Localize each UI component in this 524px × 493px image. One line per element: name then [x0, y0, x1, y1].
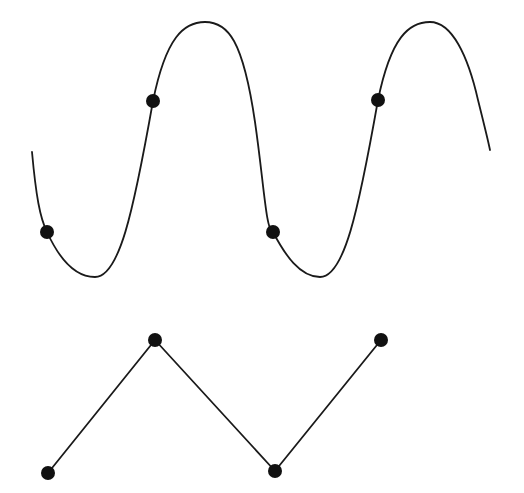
data-point-marker[interactable]	[374, 333, 388, 347]
data-point-marker[interactable]	[266, 225, 280, 239]
data-point-marker[interactable]	[148, 333, 162, 347]
data-point-marker[interactable]	[371, 93, 385, 107]
data-point-marker[interactable]	[41, 466, 55, 480]
figure-svg	[0, 0, 524, 493]
figure-background	[0, 0, 524, 493]
data-point-marker[interactable]	[146, 94, 160, 108]
data-point-marker[interactable]	[40, 225, 54, 239]
data-point-marker[interactable]	[268, 464, 282, 478]
figure-canvas	[0, 0, 524, 493]
